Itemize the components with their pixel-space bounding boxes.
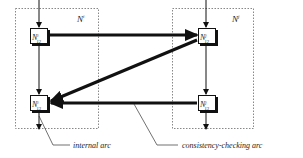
internal-arc-label: internal arc	[73, 141, 111, 150]
consistency-arc-diagonal	[51, 40, 197, 101]
node-left-bottom: Ni13	[31, 96, 51, 114]
consistency-arc-label: consistency-checking arc	[182, 141, 263, 150]
node-right-top: Nj12	[199, 29, 219, 47]
consistency-arc-leader	[134, 104, 178, 145]
network-label-right: Nj	[231, 14, 240, 24]
internal-arc-leader	[39, 116, 70, 145]
node-left-top: Ni12	[31, 29, 51, 47]
network-label-left: Ni	[76, 14, 85, 24]
network-diagram: Ni Nj Ni12 Ni13 Nj12 Nj1	[0, 0, 303, 158]
network-box-left	[16, 9, 99, 129]
node-right-bottom: Nj13	[199, 96, 219, 114]
